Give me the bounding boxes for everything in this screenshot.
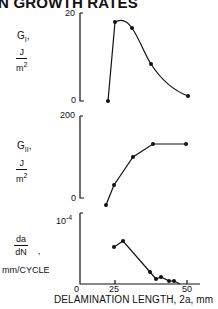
rate-curve [114, 241, 180, 284]
gi-curve [108, 20, 188, 101]
gi-axis [80, 13, 84, 101]
gii-curve [106, 144, 186, 205]
data-points [104, 20, 190, 283]
gii-axis [80, 116, 84, 198]
rate-axis [80, 213, 200, 284]
plot-canvas [0, 0, 218, 309]
